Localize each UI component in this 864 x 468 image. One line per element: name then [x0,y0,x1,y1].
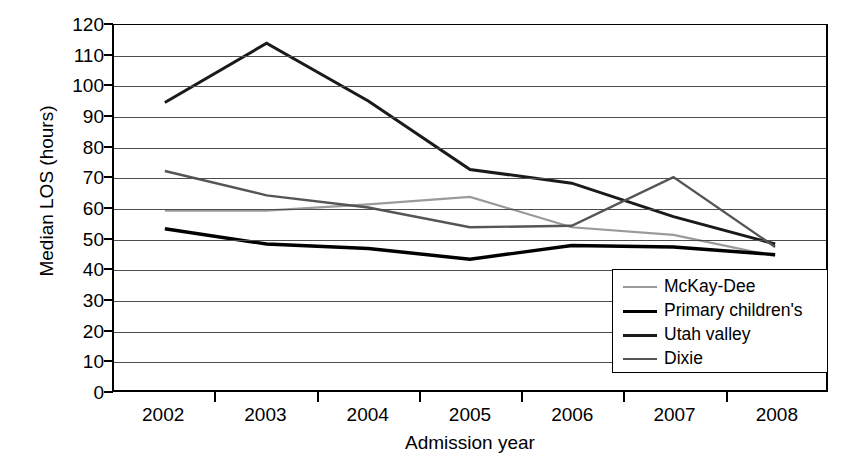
series-line [165,43,775,244]
y-axis-tick-labels: 1201101009080706050403020100 [28,24,104,392]
y-axis-tick-mark [104,54,113,56]
gridline [114,86,826,87]
y-axis-tick-mark [104,299,113,301]
y-axis-tick-mark [104,268,113,270]
line-chart: Median LOS (hours) 120110100908070605040… [0,0,864,468]
y-axis-tick-label: 40 [28,260,104,279]
gridline [114,56,826,57]
x-axis-tick-label: 2003 [210,404,320,426]
y-axis-tick-mark [104,207,113,209]
x-axis-tick-label: 2002 [108,404,218,426]
y-axis-tick-mark [104,146,113,148]
x-axis-tick-label: 2005 [415,404,525,426]
gridline [114,240,826,241]
y-axis-tick-mark [104,238,113,240]
y-axis-tick-label: 90 [28,107,104,126]
chart-legend: McKay-DeePrimary children'sUtah valleyDi… [612,269,828,373]
y-axis-tick-mark [104,23,113,25]
x-axis-tick-mark [317,392,319,402]
y-axis-tick-label: 70 [28,168,104,187]
y-axis-tick-mark [104,115,113,117]
x-axis-title: Admission year [112,432,828,454]
y-axis-tick-mark [104,176,113,178]
legend-item-label: Dixie [664,350,703,368]
legend-color-swatch [623,286,657,288]
x-axis-tick-label: 2007 [620,404,730,426]
legend-color-swatch [623,334,657,337]
y-axis-tick-label: 120 [28,15,104,34]
y-axis-tick-label: 60 [28,199,104,218]
x-axis-tick-mark [521,392,523,402]
legend-item[interactable]: McKay-Dee [623,275,827,299]
legend-color-swatch [623,358,657,360]
legend-item[interactable]: Dixie [623,347,827,371]
gridline [114,209,826,210]
legend-item-label: McKay-Dee [664,278,755,296]
y-axis-tick-mark [104,360,113,362]
x-axis-tick-mark [214,392,216,402]
y-axis-tick-label: 0 [28,383,104,402]
series-line [165,229,775,259]
y-axis-tick-mark [104,330,113,332]
y-axis-tick-label: 100 [28,76,104,95]
y-axis-tick-mark [104,391,113,393]
x-axis-tick-label: 2006 [517,404,627,426]
legend-color-swatch [623,310,657,313]
y-axis-tick-mark [104,84,113,86]
legend-item-label: Primary children's [664,302,803,320]
legend-item[interactable]: Primary children's [623,299,827,323]
x-axis-tick-label: 2004 [313,404,423,426]
legend-item-label: Utah valley [664,326,751,344]
x-axis-tick-mark [623,392,625,402]
x-axis-tick-mark [726,392,728,402]
gridline [114,148,826,149]
y-axis-tick-label: 80 [28,137,104,156]
y-axis-tick-label: 50 [28,229,104,248]
y-axis-tick-label: 20 [28,321,104,340]
y-axis-tick-label: 10 [28,352,104,371]
gridline [114,117,826,118]
y-axis-tick-label: 30 [28,291,104,310]
x-axis-tick-mark [419,392,421,402]
legend-item[interactable]: Utah valley [623,323,827,347]
gridline [114,178,826,179]
y-axis-tick-label: 110 [28,45,104,64]
x-axis-tick-label: 2008 [722,404,832,426]
